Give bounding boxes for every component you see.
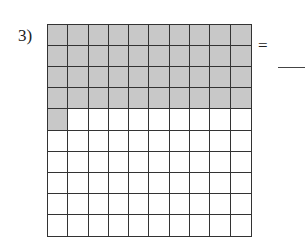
empty-cell xyxy=(48,215,68,236)
empty-cell xyxy=(170,215,190,236)
shaded-cell xyxy=(109,67,129,88)
empty-cell xyxy=(109,131,129,152)
empty-cell xyxy=(210,109,230,130)
problem-number: 3) xyxy=(18,26,32,46)
empty-cell xyxy=(109,152,129,173)
shaded-cell xyxy=(149,67,169,88)
empty-cell xyxy=(129,131,149,152)
empty-cell xyxy=(190,131,210,152)
shaded-cell xyxy=(68,25,88,46)
empty-cell xyxy=(48,194,68,215)
shaded-cell xyxy=(190,46,210,67)
empty-cell xyxy=(149,173,169,194)
shaded-cell xyxy=(231,88,251,109)
shaded-cell xyxy=(109,25,129,46)
shaded-cell xyxy=(48,25,68,46)
empty-cell xyxy=(68,109,88,130)
empty-cell xyxy=(231,131,251,152)
shaded-cell xyxy=(68,88,88,109)
shaded-cell xyxy=(129,25,149,46)
shaded-cell xyxy=(109,88,129,109)
shaded-cell xyxy=(48,67,68,88)
empty-cell xyxy=(170,173,190,194)
shaded-cell xyxy=(170,67,190,88)
shaded-cell xyxy=(170,46,190,67)
empty-cell xyxy=(68,215,88,236)
empty-cell xyxy=(210,194,230,215)
empty-cell xyxy=(129,152,149,173)
empty-cell xyxy=(109,194,129,215)
empty-cell xyxy=(129,194,149,215)
shaded-cell xyxy=(149,46,169,67)
shaded-cell xyxy=(190,88,210,109)
shaded-cell xyxy=(210,25,230,46)
empty-cell xyxy=(149,131,169,152)
empty-cell xyxy=(129,215,149,236)
shaded-cell xyxy=(129,46,149,67)
shaded-cell xyxy=(231,67,251,88)
empty-cell xyxy=(109,109,129,130)
equals-sign: = xyxy=(258,36,268,56)
shaded-cell xyxy=(89,67,109,88)
shaded-cell xyxy=(68,46,88,67)
shaded-cell xyxy=(190,25,210,46)
empty-cell xyxy=(170,194,190,215)
empty-cell xyxy=(89,109,109,130)
shaded-cell xyxy=(48,88,68,109)
shaded-cell xyxy=(210,67,230,88)
empty-cell xyxy=(48,173,68,194)
shaded-cell xyxy=(149,25,169,46)
shaded-cell xyxy=(48,109,68,130)
empty-cell xyxy=(109,215,129,236)
empty-cell xyxy=(149,194,169,215)
empty-cell xyxy=(231,194,251,215)
empty-cell xyxy=(190,152,210,173)
empty-cell xyxy=(170,152,190,173)
shaded-cell xyxy=(68,67,88,88)
empty-cell xyxy=(231,109,251,130)
shaded-cell xyxy=(149,88,169,109)
empty-cell xyxy=(109,173,129,194)
empty-cell xyxy=(190,194,210,215)
empty-cell xyxy=(89,215,109,236)
empty-cell xyxy=(231,215,251,236)
empty-cell xyxy=(149,215,169,236)
shaded-cell xyxy=(231,46,251,67)
shaded-cell xyxy=(48,46,68,67)
empty-cell xyxy=(48,152,68,173)
shaded-cell xyxy=(231,25,251,46)
empty-cell xyxy=(231,152,251,173)
empty-cell xyxy=(129,109,149,130)
shaded-cell xyxy=(190,67,210,88)
shaded-cell xyxy=(129,67,149,88)
shaded-cell xyxy=(210,46,230,67)
empty-cell xyxy=(170,109,190,130)
empty-cell xyxy=(89,152,109,173)
empty-cell xyxy=(68,131,88,152)
empty-cell xyxy=(48,131,68,152)
empty-cell xyxy=(190,215,210,236)
shaded-cell xyxy=(170,25,190,46)
shaded-cell xyxy=(89,46,109,67)
shaded-cell xyxy=(89,25,109,46)
answer-blank[interactable] xyxy=(278,67,305,68)
empty-cell xyxy=(210,215,230,236)
empty-cell xyxy=(210,131,230,152)
empty-cell xyxy=(129,173,149,194)
empty-cell xyxy=(190,109,210,130)
empty-cell xyxy=(68,152,88,173)
empty-cell xyxy=(149,109,169,130)
empty-cell xyxy=(149,152,169,173)
empty-cell xyxy=(170,131,190,152)
empty-cell xyxy=(190,173,210,194)
shaded-cell xyxy=(89,88,109,109)
shaded-cell xyxy=(210,88,230,109)
empty-cell xyxy=(68,194,88,215)
empty-cell xyxy=(89,131,109,152)
empty-cell xyxy=(89,194,109,215)
shaded-cell xyxy=(109,46,129,67)
empty-cell xyxy=(89,173,109,194)
hundred-grid xyxy=(47,24,252,237)
empty-cell xyxy=(210,173,230,194)
empty-cell xyxy=(231,173,251,194)
